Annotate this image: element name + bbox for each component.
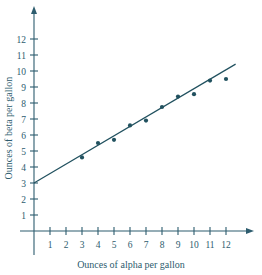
x-tick-label: 2 bbox=[64, 240, 69, 250]
data-point-marker bbox=[112, 138, 116, 142]
x-tick-label: 4 bbox=[96, 240, 101, 250]
data-point-marker bbox=[160, 105, 164, 109]
data-point-marker bbox=[192, 92, 196, 96]
regression-line bbox=[34, 64, 236, 183]
trend-line bbox=[34, 64, 236, 183]
y-tick-label: 9 bbox=[21, 83, 26, 93]
y-axis-title: Ounces of beta per gallon bbox=[3, 77, 14, 180]
data-point-marker bbox=[144, 119, 148, 123]
x-tick-label: 3 bbox=[80, 240, 85, 250]
y-tick-label: 8 bbox=[21, 99, 26, 109]
y-tick-label: 5 bbox=[21, 147, 26, 157]
x-axis-arrowhead bbox=[246, 228, 254, 234]
y-tick-label: 4 bbox=[21, 163, 26, 173]
axes-group bbox=[20, 6, 254, 255]
plot-canvas: 123456789101112 123456789101112 Ounces o… bbox=[0, 0, 262, 275]
data-point-marker bbox=[208, 79, 212, 83]
y-tick-label: 11 bbox=[17, 51, 26, 61]
data-point-marker bbox=[224, 77, 228, 81]
y-tick-label: 3 bbox=[21, 179, 26, 189]
x-tick-label: 7 bbox=[144, 240, 149, 250]
y-tick-label: 2 bbox=[21, 195, 26, 205]
x-tick-label: 5 bbox=[112, 240, 117, 250]
data-points bbox=[80, 77, 228, 160]
x-tick-label: 6 bbox=[128, 240, 133, 250]
y-tick-label: 1 bbox=[21, 211, 26, 221]
scatter-plot-figure: 123456789101112 123456789101112 Ounces o… bbox=[0, 0, 262, 275]
data-point-marker bbox=[176, 95, 180, 99]
data-point-marker bbox=[80, 155, 84, 159]
y-axis-ticks: 123456789101112 bbox=[17, 35, 39, 221]
y-tick-label: 12 bbox=[17, 35, 27, 45]
data-point-marker bbox=[128, 123, 132, 127]
x-tick-label: 1 bbox=[48, 240, 53, 250]
x-tick-label: 12 bbox=[221, 240, 231, 250]
x-tick-label: 9 bbox=[176, 240, 181, 250]
data-point-marker bbox=[96, 141, 100, 145]
y-tick-label: 7 bbox=[21, 115, 26, 125]
x-tick-label: 8 bbox=[160, 240, 165, 250]
y-axis-arrowhead bbox=[31, 6, 37, 14]
x-tick-label: 11 bbox=[205, 240, 214, 250]
y-tick-label: 6 bbox=[21, 131, 26, 141]
x-tick-label: 10 bbox=[189, 240, 199, 250]
y-tick-label: 10 bbox=[17, 67, 27, 77]
x-axis-title: Ounces of alpha per gallon bbox=[77, 259, 185, 270]
